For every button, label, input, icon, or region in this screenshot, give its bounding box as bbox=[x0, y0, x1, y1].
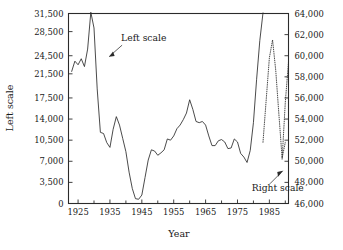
right-tick-label: 52,000 bbox=[295, 135, 324, 145]
left-tick-label: 10,500 bbox=[34, 135, 63, 145]
line-chart: 03,5007,00010,50014,00017,50021,50024,50… bbox=[0, 0, 343, 250]
x-tick-label: 1975 bbox=[227, 207, 248, 217]
right-tick-label: 46,000 bbox=[295, 199, 324, 209]
annotation-right-scale: Right scale bbox=[252, 182, 304, 193]
right-tick-label: 64,000 bbox=[295, 9, 324, 19]
left-tick-label: 28,500 bbox=[34, 27, 63, 37]
left-tick-label: 3,500 bbox=[40, 177, 64, 187]
left-tick-label: 14,000 bbox=[34, 114, 63, 124]
x-tick-label: 1965 bbox=[195, 207, 216, 217]
x-axis-tick-labels: 1925193519451955196519751985 bbox=[67, 207, 280, 217]
right-tick-label: 56,000 bbox=[295, 93, 324, 103]
left-tick-label: 0 bbox=[58, 199, 63, 209]
annotation-left-scale: Left scale bbox=[121, 32, 166, 43]
left-tick-label: 21,500 bbox=[34, 69, 63, 79]
x-tick-label: 1955 bbox=[163, 207, 184, 217]
x-tick-label: 1925 bbox=[67, 207, 88, 217]
left-tick-label: 17,500 bbox=[34, 93, 63, 103]
right-tick-label: 62,000 bbox=[295, 30, 324, 40]
left-tick-label: 24,500 bbox=[34, 51, 63, 61]
right-tick-label: 50,000 bbox=[295, 156, 324, 166]
x-axis-title: Year bbox=[167, 228, 190, 239]
y-axis-title: Left scale bbox=[4, 84, 15, 131]
chart-figure: 03,5007,00010,50014,00017,50021,50024,50… bbox=[0, 0, 343, 250]
right-tick-label: 58,000 bbox=[295, 72, 324, 82]
left-tick-label: 7,000 bbox=[40, 156, 64, 166]
right-tick-label: 54,000 bbox=[295, 114, 324, 124]
left-tick-label: 31,500 bbox=[34, 9, 63, 19]
x-tick-label: 1945 bbox=[131, 207, 152, 217]
x-tick-label: 1935 bbox=[99, 207, 120, 217]
right-tick-label: 60,000 bbox=[295, 51, 324, 61]
x-tick-label: 1985 bbox=[259, 207, 280, 217]
